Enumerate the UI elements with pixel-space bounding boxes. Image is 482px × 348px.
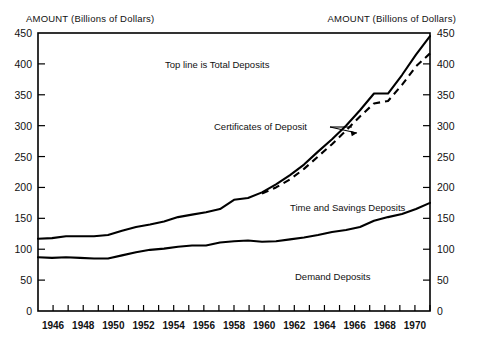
chart-container: AMOUNT (Billions of Dollars) AMOUNT (Bil… — [0, 0, 482, 348]
y-tick-label-left: 400 — [14, 58, 32, 70]
x-axis-labels: 1946194819501952195419561958196019621964… — [42, 320, 427, 331]
y-tick-label-right: 50 — [437, 274, 449, 286]
y-tick-label-right: 250 — [437, 151, 455, 163]
y-axis-labels-left: 050100150200250300350400450 — [14, 27, 32, 317]
x-axis-ticks — [53, 305, 430, 311]
x-tick-label: 1966 — [343, 320, 366, 331]
y-tick-label-right: 200 — [437, 181, 455, 193]
y-axis-ticks-left — [38, 64, 45, 280]
demand-deposits-label: Demand Deposits — [295, 271, 371, 282]
x-tick-label: 1960 — [253, 320, 276, 331]
y-axis-ticks-right — [423, 64, 430, 280]
y-axis-labels-right: 050100150200250300350400450 — [437, 27, 455, 317]
y-tick-label-right: 300 — [437, 120, 455, 132]
x-tick-label: 1946 — [42, 320, 65, 331]
y-tick-label-left: 100 — [14, 243, 32, 255]
x-tick-label: 1950 — [102, 320, 125, 331]
x-tick-label: 1948 — [72, 320, 95, 331]
y-tick-label-left: 150 — [14, 212, 32, 224]
y-tick-label-left: 350 — [14, 89, 32, 101]
y-tick-label-right: 450 — [437, 27, 455, 39]
y-tick-label-left: 300 — [14, 120, 32, 132]
y-tick-label-right: 350 — [437, 89, 455, 101]
certificates-leader-arrowhead — [351, 131, 358, 136]
y-tick-label-left: 200 — [14, 181, 32, 193]
time-and-savings-deposits-label: Time and Savings Deposits — [290, 202, 406, 213]
x-tick-label: 1952 — [132, 320, 155, 331]
y-tick-label-left: 0 — [26, 305, 32, 317]
right-axis-title: AMOUNT (Billions of Dollars) — [328, 13, 456, 24]
x-tick-label: 1964 — [313, 320, 336, 331]
plot-frame — [38, 33, 430, 311]
x-tick-label: 1970 — [404, 320, 427, 331]
y-tick-label-left: 50 — [20, 274, 32, 286]
deposits-line-chart: AMOUNT (Billions of Dollars) AMOUNT (Bil… — [0, 0, 482, 348]
x-tick-label: 1962 — [283, 320, 306, 331]
left-axis-title-text: AMOUNT (Billions of Dollars) — [26, 13, 154, 24]
y-tick-label-right: 150 — [437, 212, 455, 224]
chart-annotations: Top line is Total DepositsCertificates o… — [165, 59, 406, 282]
y-tick-label-left: 450 — [14, 27, 32, 39]
top-line-note: Top line is Total Deposits — [165, 59, 270, 70]
x-tick-label: 1958 — [223, 320, 246, 331]
y-tick-label-right: 400 — [437, 58, 455, 70]
right-axis-title-text: AMOUNT (Billions of Dollars) — [328, 13, 456, 24]
y-tick-label-right: 0 — [437, 305, 443, 317]
certificates-of-deposit-label: Certificates of Deposit — [214, 121, 307, 132]
x-tick-label: 1968 — [374, 320, 397, 331]
y-tick-label-left: 250 — [14, 151, 32, 163]
left-axis-title: AMOUNT (Billions of Dollars) — [26, 13, 154, 24]
x-tick-label: 1954 — [163, 320, 186, 331]
x-tick-label: 1956 — [193, 320, 216, 331]
y-tick-label-right: 100 — [437, 243, 455, 255]
